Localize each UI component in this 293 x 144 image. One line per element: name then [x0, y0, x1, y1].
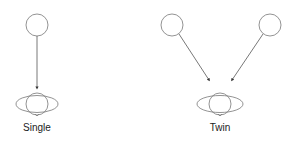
single-label: Single [23, 122, 51, 133]
twin-target-ellipse [197, 96, 243, 113]
twin-source-circle-right [259, 14, 281, 36]
twin-source-circle-left [161, 14, 183, 36]
single-source-circle [26, 14, 48, 36]
twin-arrow-left [179, 34, 209, 80]
twin-target-circle [209, 93, 231, 115]
twin-arrow-right [232, 34, 263, 80]
twin-panel [161, 14, 281, 116]
single-target-ellipse [16, 96, 58, 113]
twin-label: Twin [210, 122, 231, 133]
single-panel [16, 14, 58, 116]
single-target-circle [26, 93, 48, 115]
